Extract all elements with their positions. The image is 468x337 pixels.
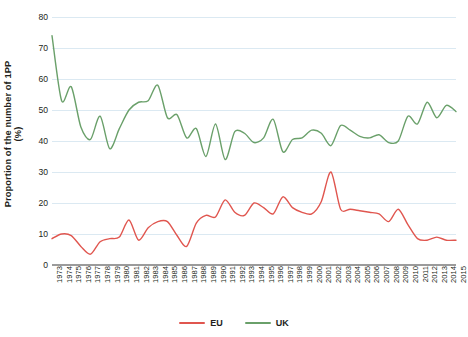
- x-axis-tick-label: 2006: [372, 266, 381, 310]
- legend-item-eu[interactable]: EU: [179, 318, 223, 328]
- series-line-eu: [52, 172, 456, 254]
- x-axis-tick-label: 1986: [180, 266, 189, 310]
- x-axis-tick-label: 1991: [228, 266, 237, 310]
- x-axis-tick-label: 1999: [305, 266, 314, 310]
- x-axis-tick-label: 2013: [440, 266, 449, 310]
- x-axis-tick-label: 1974: [65, 266, 74, 310]
- x-axis-tick-label: 1983: [151, 266, 160, 310]
- chart-figure: Proportion of the number of 1PP (%) 0102…: [0, 0, 468, 337]
- x-axis-tick-label: 1998: [295, 266, 304, 310]
- x-axis-tick-label: 2014: [449, 266, 458, 310]
- x-axis-tick-label: 2015: [459, 266, 468, 310]
- x-axis-tick-label: 1992: [238, 266, 247, 310]
- x-axis-tick-label: 1995: [267, 266, 276, 310]
- x-axis-tick-label: 1980: [122, 266, 131, 310]
- y-axis-tick-label: 70: [38, 43, 48, 53]
- y-axis-tick-label: 20: [38, 198, 48, 208]
- x-axis-tick-label: 1994: [257, 266, 266, 310]
- x-axis-tick-label: 1987: [190, 266, 199, 310]
- x-axis-tick-label: 2005: [363, 266, 372, 310]
- legend-swatch-icon: [245, 322, 271, 324]
- y-axis-tick-label: 30: [38, 167, 48, 177]
- x-axis-ticks: 1973197419751976197719781979198019811982…: [52, 266, 456, 310]
- x-axis-tick-label: 2004: [353, 266, 362, 310]
- x-axis-tick-label: 2000: [315, 266, 324, 310]
- y-axis-tick-label: 40: [38, 136, 48, 146]
- y-axis-tick-label: 10: [38, 229, 48, 239]
- x-axis-tick-label: 2012: [430, 266, 439, 310]
- y-axis-title: Proportion of the number of 1PP (%): [0, 0, 26, 268]
- x-axis-tick-label: 2008: [392, 266, 401, 310]
- x-axis-tick-label: 2009: [401, 266, 410, 310]
- x-axis-tick-label: 1977: [93, 266, 102, 310]
- chart-legend: EUUK: [0, 313, 468, 333]
- legend-swatch-icon: [179, 322, 205, 324]
- x-axis-tick-label: 1985: [170, 266, 179, 310]
- x-axis-tick-label: 1975: [74, 266, 83, 310]
- legend-label: UK: [276, 318, 289, 328]
- x-axis-tick-label: 2002: [334, 266, 343, 310]
- x-axis-tick-label: 2001: [324, 266, 333, 310]
- x-axis-tick-label: 2011: [421, 266, 430, 310]
- x-axis-tick-label: 1996: [276, 266, 285, 310]
- legend-item-uk[interactable]: UK: [245, 318, 289, 328]
- plot-area: 01020304050607080: [52, 17, 456, 265]
- x-axis-tick-label: 1976: [84, 266, 93, 310]
- y-axis-tick-label: 50: [38, 105, 48, 115]
- series-line-uk: [52, 36, 456, 160]
- x-axis-tick-label: 1988: [199, 266, 208, 310]
- y-axis-tick-label: 0: [43, 260, 48, 270]
- legend-label: EU: [210, 318, 223, 328]
- y-axis-title-text: Proportion of the number of 1PP: [3, 61, 13, 208]
- y-axis-tick-label: 80: [38, 12, 48, 22]
- y-axis-units-text: (%): [13, 61, 23, 208]
- x-axis-tick-label: 1978: [103, 266, 112, 310]
- x-axis-tick-label: 1979: [113, 266, 122, 310]
- series-lines: [52, 17, 456, 265]
- x-axis-tick-label: 1990: [219, 266, 228, 310]
- x-axis-tick-label: 1993: [247, 266, 256, 310]
- x-axis-tick-label: 1997: [286, 266, 295, 310]
- x-axis-tick-label: 1989: [209, 266, 218, 310]
- x-axis-tick-label: 1982: [142, 266, 151, 310]
- x-axis-tick-label: 1973: [55, 266, 64, 310]
- y-axis-tick-label: 60: [38, 74, 48, 84]
- x-axis-tick-label: 2010: [411, 266, 420, 310]
- x-axis-tick-label: 2003: [344, 266, 353, 310]
- x-axis-tick-label: 1981: [132, 266, 141, 310]
- x-axis-tick-label: 2007: [382, 266, 391, 310]
- x-axis-tick-label: 1984: [161, 266, 170, 310]
